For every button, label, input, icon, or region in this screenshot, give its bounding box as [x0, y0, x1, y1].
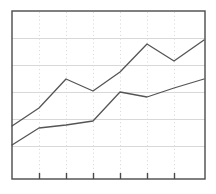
line-chart — [0, 0, 216, 194]
chart-canvas — [0, 0, 216, 194]
chart-background — [0, 0, 216, 194]
